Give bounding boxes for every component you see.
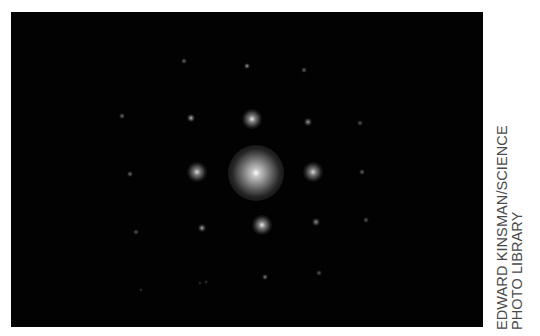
diffraction-spot [133, 229, 139, 235]
diffraction-spot [244, 63, 250, 69]
diffraction-spot [119, 113, 125, 119]
diffraction-spot [363, 217, 369, 223]
photo-credit: EDWARD KINSMAN/SCIENCE PHOTO LIBRARY [495, 125, 525, 330]
diffraction-spot [181, 58, 187, 64]
diffraction-spot [198, 281, 202, 285]
diffraction-spot [303, 162, 323, 182]
credit-line-1: EDWARD KINSMAN/SCIENCE [495, 125, 510, 330]
diffraction-spot [204, 280, 208, 284]
diffraction-spot [262, 274, 268, 280]
diffraction-spot [198, 224, 206, 232]
diffraction-spot [316, 270, 322, 276]
diffraction-spot [127, 171, 133, 177]
diffraction-spot [139, 288, 143, 292]
diffraction-spot [304, 118, 312, 126]
diffraction-spot [187, 114, 195, 122]
diffraction-spot [312, 218, 320, 226]
diffraction-spot [357, 120, 363, 126]
central-beam-spot [228, 145, 284, 201]
diffraction-photo [11, 12, 483, 327]
diffraction-spot [359, 169, 365, 175]
credit-line-2: PHOTO LIBRARY [510, 125, 525, 330]
diffraction-spot [187, 162, 207, 182]
diffraction-spot [301, 67, 307, 73]
diffraction-spot [252, 215, 272, 235]
diffraction-spot [242, 109, 262, 129]
